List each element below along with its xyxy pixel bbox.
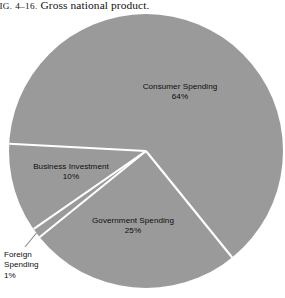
foreign-spending-leader-line — [25, 233, 37, 247]
slice-label-business-investment-name: Business Investment — [18, 162, 124, 172]
slice-label-business-investment: Business Investment 10% — [18, 162, 124, 183]
slice-label-consumer-spending-name: Consumer Spending — [132, 82, 228, 92]
slice-label-foreign-spending: Foreign Spending 1% — [4, 250, 56, 281]
slice-label-government-spending: Government Spending 25% — [77, 216, 189, 237]
slice-label-government-spending-name: Government Spending — [77, 216, 189, 226]
slice-label-government-spending-value: 25% — [77, 226, 189, 236]
slice-label-foreign-spending-name-2: Spending — [4, 260, 56, 270]
slice-label-foreign-spending-value: 1% — [4, 271, 56, 281]
figure-pie-chart: FIG. 4–16. Gross national product. Consu… — [0, 0, 285, 298]
slice-label-consumer-spending-value: 64% — [132, 92, 228, 102]
slice-label-business-investment-value: 10% — [18, 172, 124, 182]
slice-label-consumer-spending: Consumer Spending 64% — [132, 82, 228, 103]
slice-label-foreign-spending-name-1: Foreign — [4, 250, 56, 260]
